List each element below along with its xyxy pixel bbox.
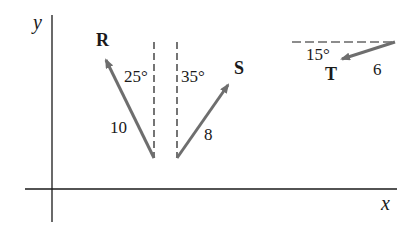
vector-r-magnitude: 10 <box>110 118 127 137</box>
vector-r-label: R <box>96 30 110 50</box>
vector-s-magnitude: 8 <box>204 125 213 144</box>
vector-t-label: T <box>325 64 337 84</box>
vector-diagram: y x R 25° 10 S 35° 8 15° T 6 <box>0 0 419 229</box>
y-axis-label: y <box>31 11 42 34</box>
vector-s-arrow <box>177 85 228 158</box>
vector-s-label: S <box>234 58 244 78</box>
vector-t-magnitude: 6 <box>373 60 382 79</box>
vector-t-angle: 15° <box>306 45 330 64</box>
vector-t-arrow <box>342 42 395 59</box>
x-axis-label: x <box>380 192 390 214</box>
vector-s-angle: 35° <box>181 67 205 86</box>
vector-r-angle: 25° <box>124 67 148 86</box>
diagram-svg: y x R 25° 10 S 35° 8 15° T 6 <box>0 0 419 229</box>
